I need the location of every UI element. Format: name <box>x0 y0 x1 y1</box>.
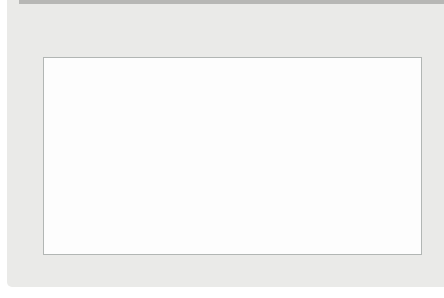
plot-area <box>43 57 422 255</box>
histogram-chart <box>0 0 444 298</box>
